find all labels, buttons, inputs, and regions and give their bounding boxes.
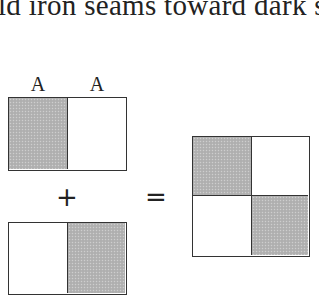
- result-top-left-cell-shaded: [193, 137, 251, 195]
- result-square: [192, 136, 310, 257]
- bottom-rectangle-right-cell-shaded: [68, 223, 125, 293]
- result-horizontal-divider: [193, 195, 308, 197]
- top-rectangle-right-cell: [68, 98, 126, 169]
- result-top-right-cell: [252, 137, 308, 195]
- plus-operator: +: [52, 184, 82, 210]
- column-label-left: A: [23, 74, 53, 94]
- column-label-right: A: [82, 74, 112, 94]
- result-bottom-right-cell-shaded: [252, 196, 308, 255]
- bottom-rectangle-left-cell: [9, 223, 67, 293]
- bottom-rectangle: [8, 222, 127, 295]
- top-rectangle-divider: [67, 98, 69, 169]
- equals-operator: =: [141, 184, 171, 210]
- result-vertical-divider: [251, 137, 253, 255]
- result-bottom-left-cell: [193, 196, 251, 255]
- body-text-fragment: ld iron seams toward dark s: [0, 0, 319, 22]
- bottom-rectangle-divider: [67, 223, 69, 293]
- top-rectangle-left-cell-shaded: [9, 98, 67, 169]
- top-rectangle: [8, 97, 127, 171]
